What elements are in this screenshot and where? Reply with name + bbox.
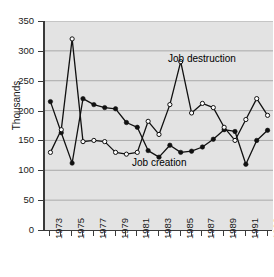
data-point (189, 149, 193, 153)
x-tick-mark (82, 231, 83, 236)
data-point (113, 150, 117, 154)
y-tick-mark (38, 51, 43, 52)
y-axis-title: Thousands (11, 66, 22, 146)
data-point (135, 150, 139, 154)
data-point (255, 138, 259, 142)
data-point (103, 140, 107, 144)
data-point (233, 138, 237, 142)
x-tick-mark (212, 231, 213, 236)
y-tick-mark (38, 21, 43, 22)
x-tick-mark (191, 231, 192, 236)
data-point (157, 132, 161, 136)
y-tick-mark (38, 111, 43, 112)
x-tick-mark (60, 231, 61, 236)
x-tick-mark (93, 231, 94, 236)
x-tick-label: 1977 (97, 218, 108, 239)
y-tick-mark (38, 230, 43, 231)
y-tick-label: 100 (8, 165, 34, 174)
x-tick-label: 1989 (227, 218, 238, 239)
data-point (265, 128, 269, 132)
data-point (200, 145, 204, 149)
data-point (92, 138, 96, 142)
data-point (244, 117, 248, 121)
y-tick-label: 0 (8, 225, 34, 234)
x-tick-label: 1979 (119, 218, 130, 239)
data-point (59, 128, 63, 132)
data-point (135, 125, 139, 129)
series-layer (48, 37, 270, 167)
x-tick-mark (201, 231, 202, 236)
data-point (168, 103, 172, 107)
x-tick-label: 1983 (162, 218, 173, 239)
y-axis-line (43, 21, 44, 231)
data-point (92, 102, 96, 106)
y-tick-mark (38, 140, 43, 141)
y-tick-label: 50 (8, 195, 34, 204)
x-tick-label: 1975 (75, 218, 86, 239)
x-tick-mark (71, 231, 72, 236)
y-tick-mark (38, 170, 43, 171)
x-tick-label: 1987 (205, 218, 216, 239)
data-point (70, 161, 74, 165)
series-label-job-creation: Job creation (132, 157, 186, 168)
x-tick-label: 1981 (140, 218, 151, 239)
x-tick-mark (234, 231, 235, 236)
x-tick-mark (125, 231, 126, 236)
chart-container: 050100150200250300350 197319751977197919… (0, 0, 274, 277)
data-point (222, 125, 226, 129)
x-tick-mark (158, 231, 159, 236)
y-tick-label: 300 (8, 46, 34, 55)
x-tick-mark (49, 231, 50, 236)
data-point (81, 140, 85, 144)
data-point (200, 101, 204, 105)
x-tick-mark (147, 231, 148, 236)
data-point (168, 143, 172, 147)
data-point (124, 152, 128, 156)
data-point (146, 148, 150, 152)
x-tick-mark (245, 231, 246, 236)
y-tick-mark (38, 200, 43, 201)
data-point (265, 113, 269, 117)
data-point (103, 105, 107, 109)
x-tick-mark (267, 231, 268, 236)
x-tick-mark (169, 231, 170, 236)
plot-area (44, 21, 273, 230)
series-label-job-destruction: Job destruction (168, 53, 236, 64)
data-point (113, 107, 117, 111)
y-tick-mark (38, 81, 43, 82)
data-point (244, 162, 248, 166)
x-tick-mark (115, 231, 116, 236)
x-tick-label: 1993 (271, 218, 274, 239)
data-point (211, 105, 215, 109)
x-tick-label: 1985 (184, 218, 195, 239)
x-tick-label: 1991 (249, 218, 260, 239)
data-point (189, 111, 193, 115)
x-tick-mark (104, 231, 105, 236)
data-point (211, 137, 215, 141)
x-tick-mark (180, 231, 181, 236)
data-point (146, 119, 150, 123)
x-tick-mark (223, 231, 224, 236)
data-point (179, 150, 183, 154)
data-point (255, 97, 259, 101)
data-point (233, 129, 237, 133)
x-tick-mark (256, 231, 257, 236)
x-tick-label: 1973 (53, 218, 64, 239)
data-point (48, 150, 52, 154)
data-point (124, 120, 128, 124)
data-point (81, 96, 85, 100)
plot-svg (45, 21, 273, 230)
x-tick-mark (136, 231, 137, 236)
y-tick-label: 350 (8, 16, 34, 25)
data-point (70, 37, 74, 41)
data-point (48, 99, 52, 103)
